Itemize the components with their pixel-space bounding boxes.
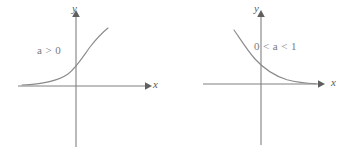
x-axis-label: x bbox=[331, 77, 336, 88]
x-axis-arrowhead bbox=[145, 82, 152, 90]
decay-curve-panel: y x 0 < a < 1 bbox=[175, 0, 349, 152]
y-axis-label: y bbox=[254, 3, 259, 14]
y-axis-label: y bbox=[72, 3, 77, 14]
condition-label-decay: 0 < a < 1 bbox=[254, 41, 297, 52]
condition-label-growth: a > 0 bbox=[37, 45, 61, 56]
exponential-functions-figure: y x a > 0 y x 0 < a < 1 bbox=[0, 0, 349, 152]
x-axis-arrowhead bbox=[318, 80, 325, 88]
growth-curve-panel: y x a > 0 bbox=[0, 0, 175, 152]
decay-curve-graph bbox=[175, 0, 349, 152]
exponential-decay-curve bbox=[234, 30, 316, 84]
growth-curve-graph bbox=[0, 0, 175, 152]
x-axis-label: x bbox=[153, 79, 158, 90]
exponential-growth-curve bbox=[22, 28, 108, 85]
